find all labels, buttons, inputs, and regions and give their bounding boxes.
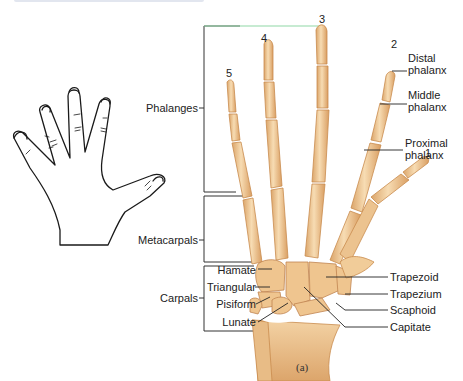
digit-number-2: 2 [391,38,397,50]
label-trapezoid: Trapezoid [390,271,439,283]
label-lunate: Lunate [222,316,256,328]
label-triangular: Triangular [207,281,256,293]
label-middle-phalanx: Middle phalanx [408,89,447,113]
label-proximal-line1: Proximal [405,137,448,149]
label-middle-line1: Middle [408,89,447,101]
label-scaphoid: Scaphoid [390,304,436,316]
label-distal-line2: phalanx [408,64,447,76]
label-hamate: Hamate [217,264,256,276]
label-carpals: Carpals [160,292,198,304]
label-proximal-line2: phalanx [405,149,448,161]
label-distal-line1: Distal [408,52,447,64]
hand-outline-drawing [14,88,165,245]
label-metacarpals: Metacarpals [138,234,198,246]
digit-number-3: 3 [319,13,325,25]
label-pisiform: Pisiform [216,298,256,310]
label-capitate: Capitate [390,321,431,333]
carpal-bones [250,260,352,316]
figure-caption: (a) [296,361,308,373]
label-phalanges: Phalanges [146,102,198,114]
label-proximal-phalanx: Proximal phalanx [405,137,448,161]
label-distal-phalanx: Distal phalanx [408,52,447,76]
label-middle-line2: phalanx [408,101,447,113]
label-trapezium: Trapezium [390,288,442,300]
digit-number-5: 5 [226,67,232,79]
digit-number-4: 4 [261,32,267,44]
hand-skeleton-figure: 1 2 3 4 5 Distal phalanx Middle phalanx … [0,0,463,381]
